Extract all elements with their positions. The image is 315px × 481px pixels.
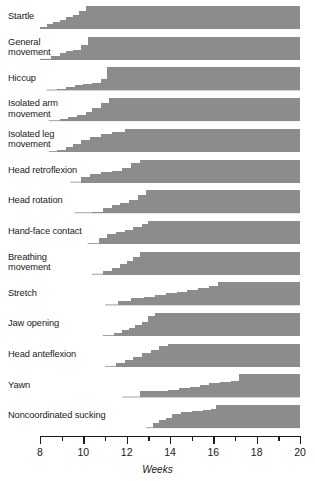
series-area [105, 282, 300, 305]
axis-tick-major [127, 436, 128, 444]
axis-tick-label: 18 [251, 446, 263, 458]
axis-tick-label: 8 [37, 446, 43, 458]
series-baseline [70, 182, 300, 183]
axis-tick-label: 12 [121, 446, 133, 458]
plot-area [0, 0, 315, 440]
series-baseline [75, 212, 300, 213]
series-label: Jaw opening [8, 318, 59, 329]
axis-tick-minor [148, 436, 149, 441]
series-label: Noncoordinated sucking [8, 410, 106, 421]
series-label: Hiccup [8, 73, 36, 84]
series-label: Head anteflexion [8, 349, 76, 360]
series-label: Isolated arm movement [8, 98, 58, 119]
series-label: Head rotation [8, 195, 63, 206]
series-label: Isolated leg movement [8, 129, 54, 150]
series-baseline [47, 90, 301, 91]
series-label: Breathing movement [8, 252, 51, 273]
axis-tick-minor [235, 436, 236, 441]
series-area [103, 313, 300, 336]
series-baseline [105, 366, 300, 367]
series-area [88, 221, 300, 244]
series-baseline [40, 28, 300, 29]
series-baseline [146, 427, 300, 428]
series-baseline [88, 243, 300, 244]
series-area [40, 37, 300, 60]
axis-tick-label: 14 [164, 446, 176, 458]
axis-tick-major [40, 436, 41, 444]
series-baseline [40, 59, 300, 60]
axis-tick-label: 10 [77, 446, 89, 458]
series-baseline [103, 335, 300, 336]
axis-tick-major [300, 436, 301, 444]
axis-tick-label: 20 [294, 446, 306, 458]
axis-tick-minor [278, 436, 279, 441]
series-label: Yawn [8, 380, 30, 391]
series-label: Stretch [8, 288, 37, 299]
fetal-movement-chart: StartleGeneral movementHiccupIsolated ar… [0, 0, 315, 481]
series-area [49, 98, 300, 121]
series-area [92, 252, 300, 275]
axis-tick-minor [105, 436, 106, 441]
axis-tick-label: 16 [207, 446, 219, 458]
series-label: General movement [8, 37, 51, 58]
axis-tick-minor [192, 436, 193, 441]
series-baseline [122, 397, 300, 398]
axis-tick-major [213, 436, 214, 444]
series-label: Startle [8, 11, 34, 22]
series-label: Head retroflexion [8, 165, 77, 176]
x-axis: 8101214161820 Weeks [0, 432, 315, 481]
series-area [122, 374, 300, 397]
series-area [75, 190, 300, 213]
series-area [40, 6, 300, 29]
series-area [70, 160, 300, 183]
series-area [146, 405, 300, 428]
series-area [49, 129, 300, 152]
incidence-curves [0, 0, 315, 440]
axis-tick-minor [62, 436, 63, 441]
series-baseline [92, 274, 300, 275]
axis-tick-major [83, 436, 84, 444]
series-area [47, 67, 301, 90]
series-baseline [49, 120, 300, 121]
series-area [105, 344, 300, 367]
axis-title: Weeks [0, 464, 315, 475]
axis-tick-major [257, 436, 258, 444]
series-baseline [105, 305, 300, 306]
series-baseline [49, 151, 300, 152]
series-label: Hand-face contact [8, 226, 82, 237]
axis-tick-major [170, 436, 171, 444]
